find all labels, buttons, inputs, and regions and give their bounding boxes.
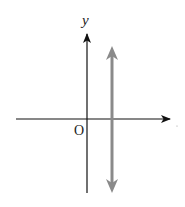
coordinate-diagram: y O	[0, 0, 185, 207]
y-axis-label: y	[80, 12, 89, 28]
origin-label: O	[74, 123, 84, 138]
speck-mark	[176, 125, 177, 126]
